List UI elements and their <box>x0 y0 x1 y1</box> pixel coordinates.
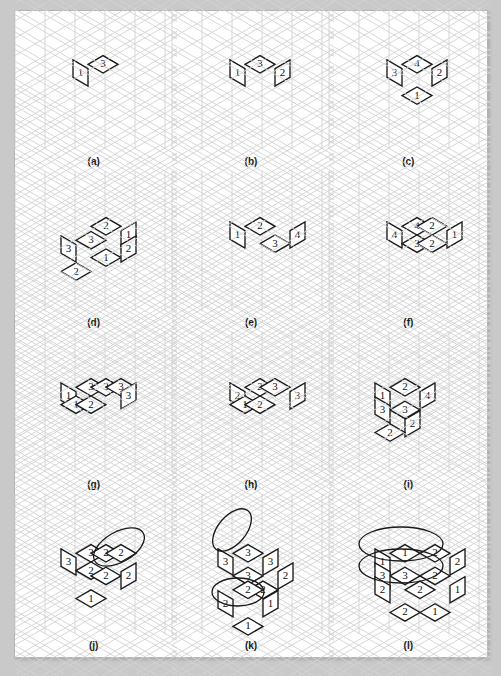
tile-label: 3 <box>403 568 409 580</box>
figure-paper: 13(a)132(b)3412(c)3231212(d)1234(e)44322… <box>14 10 488 658</box>
panel-grid: 13(a)132(b)3412(c)3231212(d)1234(e)44322… <box>15 11 487 657</box>
tiling-svg-h: 212233 <box>182 338 320 466</box>
panel-caption-k: (k) <box>172 640 329 651</box>
tile-label: 2 <box>118 546 124 558</box>
panel-canvas-j: 33222221 <box>25 500 163 628</box>
tile-label: 3 <box>257 57 263 69</box>
tile-label: 2 <box>455 555 461 567</box>
tile-label: 3 <box>125 389 131 401</box>
tile-label: 1 <box>88 591 94 603</box>
tile-label: 3 <box>272 236 278 248</box>
tile-label: 2 <box>88 563 94 575</box>
tile-label: 1 <box>403 546 409 558</box>
tile-label: 2 <box>223 596 229 608</box>
tiling-svg-j: 33222221 <box>25 500 163 628</box>
panel-k: 3333222211(k) <box>172 496 329 658</box>
tile-label: 2 <box>280 66 286 78</box>
tile-label: 3 <box>272 380 278 392</box>
tile-label: 2 <box>283 568 289 580</box>
tile-label: 2 <box>430 236 436 248</box>
tile-label: 2 <box>125 568 131 580</box>
panel-canvas-k: 3333222211 <box>182 500 320 628</box>
tile-label: 2 <box>257 398 263 410</box>
tile-label: 2 <box>430 219 436 231</box>
tile-label: 1 <box>380 555 386 567</box>
tile-label: 1 <box>268 596 274 608</box>
tiling-svg-l: 113223222121 <box>339 500 477 628</box>
panel-l: 113223222121(l) <box>330 496 487 658</box>
tile-label: 3 <box>245 546 251 558</box>
tile-label: 2 <box>418 582 424 594</box>
tile-label: 1 <box>455 582 461 594</box>
tile-label: 1 <box>380 389 386 401</box>
tile-label: 3 <box>100 57 106 69</box>
tile-label: 2 <box>245 582 251 594</box>
tile-label: 3 <box>268 555 274 567</box>
panel-canvas-i: 2143322 <box>339 338 477 466</box>
panel-canvas-l: 113223222121 <box>339 500 477 628</box>
panel-caption-j: (j) <box>15 640 172 651</box>
tile-label: 1 <box>245 619 251 631</box>
tile-label: 3 <box>223 555 229 567</box>
figure-root: 13(a)132(b)3412(c)3231212(d)1234(e)44322… <box>0 0 501 676</box>
panel-canvas-h: 212233 <box>182 338 320 466</box>
tiles-a: 13 <box>73 56 118 86</box>
panel-j: 33222221(j) <box>15 496 172 658</box>
tile-label: 4 <box>415 57 421 69</box>
tiling-svg-i: 2143322 <box>339 338 477 466</box>
panel-caption-l: (l) <box>330 640 487 651</box>
tile-label: 2 <box>380 582 386 594</box>
tile-label: 2 <box>403 605 409 617</box>
tiling-svg-g: 1132333 <box>25 338 163 466</box>
tile-label: 2 <box>257 219 263 231</box>
tile-label: 1 <box>433 605 439 617</box>
tile-label: 3 <box>380 568 386 580</box>
tile-label: 1 <box>125 228 131 240</box>
tile-label: 2 <box>437 66 443 78</box>
panel-canvas-g: 1132333 <box>25 338 163 466</box>
tiling-svg-k: 3333222211 <box>182 500 320 628</box>
tiles-j: 33222221 <box>61 544 136 607</box>
tile-label: 2 <box>103 568 109 580</box>
tile-label: 3 <box>65 555 71 567</box>
